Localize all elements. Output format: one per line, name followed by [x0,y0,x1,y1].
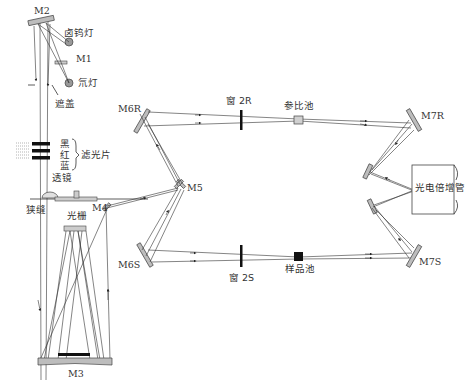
label-slit: 狭缝 [26,204,46,215]
sample-cell [294,252,303,261]
label-m1: M1 [76,53,92,64]
filter-bracket [72,139,79,170]
label-m6r: M6R [118,103,142,114]
label-halogen-lamp: 卤钨灯 [64,27,94,38]
label-m6s: M6S [118,259,140,270]
label-grating: 光栅 [67,210,87,221]
label-m3: M3 [68,368,84,379]
label-lens: 透镜 [52,172,72,183]
beam-to-pmt [369,120,414,258]
reference-cell [294,116,303,124]
label-filter-blue: 蓝 [60,160,70,171]
label-shutter: 遮盖 [55,98,75,109]
shutter-pointer [52,85,58,95]
optical-diagram: M2 卤钨灯 M1 氘灯 遮盖 [0,0,473,383]
label-photomultiplier: 光电倍增管 [415,182,465,193]
label-window-2r: 窗 2R [226,95,252,106]
label-window-2s: 窗 2S [229,272,254,283]
beam-sample [148,250,412,262]
grating-bar [58,353,90,356]
label-filter-black: 黑 [60,138,70,149]
grating [64,226,86,231]
beam-m4-m5 [107,188,178,208]
label-reference-cell: 参比池 [284,100,314,111]
label-sample-cell: 样品池 [285,263,315,274]
label-filters: 滤光片 [81,149,111,160]
label-deuterium-lamp: 氘灯 [78,77,98,88]
stage-post [74,191,79,198]
filter-stack [16,142,50,160]
mirror-upper-pmt [363,164,373,179]
window-2s [240,245,243,267]
label-m7r: M7R [421,110,445,121]
window-2r [240,110,243,130]
label-m5: M5 [187,182,203,193]
label-m2: M2 [34,5,50,16]
mirror-m3 [38,358,112,365]
label-m4: M4 [92,202,108,213]
label-m7s: M7S [419,256,441,267]
beam-reference [144,112,411,128]
mirror-m2 [28,15,54,25]
mirror-lower-pmt [367,199,377,214]
label-filter-red: 红 [60,149,70,160]
